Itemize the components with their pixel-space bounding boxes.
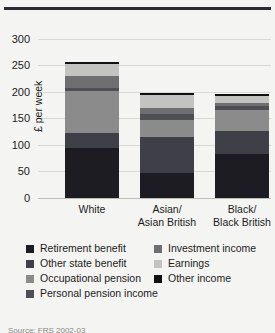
legend-item[interactable]: Earnings — [154, 256, 256, 271]
bar-segment — [65, 64, 119, 76]
bar-segment — [65, 148, 119, 198]
y-tick-label-250: 250 — [0, 60, 30, 71]
legend-item[interactable]: Other state benefit — [26, 256, 158, 271]
gridline-300 — [38, 39, 271, 40]
axis-baseline — [38, 198, 271, 199]
bar-segment — [140, 173, 194, 199]
bar-segment — [215, 131, 269, 154]
y-tick-label-50: 50 — [0, 166, 30, 177]
bar-segment — [215, 154, 269, 198]
legend-item[interactable]: Retirement benefit — [26, 241, 158, 256]
y-tick-label-200: 200 — [0, 86, 30, 97]
x-axis-label-1: White — [49, 203, 135, 216]
legend-item[interactable]: Investment income — [154, 241, 256, 256]
legend-item[interactable]: Occupational pension — [26, 271, 158, 286]
bar-2 — [140, 93, 194, 198]
legend-label: Investment income — [168, 243, 256, 254]
bar-segment — [65, 76, 119, 88]
legend-label: Earnings — [168, 258, 209, 269]
source-note: Source: FRS 2002-03 — [8, 326, 85, 333]
bar-segment — [215, 110, 269, 131]
y-tick-label-100: 100 — [0, 139, 30, 150]
legend-label: Personal pension income — [40, 288, 158, 299]
legend-item[interactable]: Other income — [154, 271, 256, 286]
plot-area: 050100150200250300 £ per week WhiteAsian… — [38, 28, 271, 198]
legend-column-left: Retirement benefitOther state benefitOcc… — [26, 241, 158, 301]
legend-label: Other state benefit — [40, 258, 126, 269]
y-tick-label-300: 300 — [0, 33, 30, 44]
legend-label: Occupational pension — [40, 273, 141, 284]
x-axis-label-2: Asian/Asian British — [124, 203, 210, 229]
legend-swatch-icon — [26, 245, 34, 253]
y-axis-label: £ per week — [32, 81, 44, 132]
legend-swatch-icon — [26, 290, 34, 298]
bar-1 — [65, 62, 119, 198]
legend-swatch-icon — [154, 260, 162, 268]
legend-label: Other income — [168, 273, 231, 284]
bar-segment — [65, 91, 119, 133]
bar-segment — [215, 96, 269, 103]
top-rule — [4, 7, 271, 10]
bar-segment — [140, 137, 194, 172]
bar-segment — [65, 133, 119, 147]
legend-swatch-icon — [154, 245, 162, 253]
legend-column-right: Investment incomeEarningsOther income — [154, 241, 256, 286]
y-tick-label-0: 0 — [0, 193, 30, 204]
bar-segment — [140, 95, 194, 108]
bar-segment — [140, 120, 194, 138]
legend-item[interactable]: Personal pension income — [26, 286, 158, 301]
chart-page: 050100150200250300 £ per week WhiteAsian… — [0, 0, 275, 333]
bar-3 — [215, 94, 269, 198]
legend-swatch-icon — [26, 260, 34, 268]
legend-swatch-icon — [154, 275, 162, 283]
y-tick-label-150: 150 — [0, 113, 30, 124]
x-axis-label-3: Black/Black British — [199, 203, 275, 229]
legend-swatch-icon — [26, 275, 34, 283]
legend-label: Retirement benefit — [40, 243, 126, 254]
